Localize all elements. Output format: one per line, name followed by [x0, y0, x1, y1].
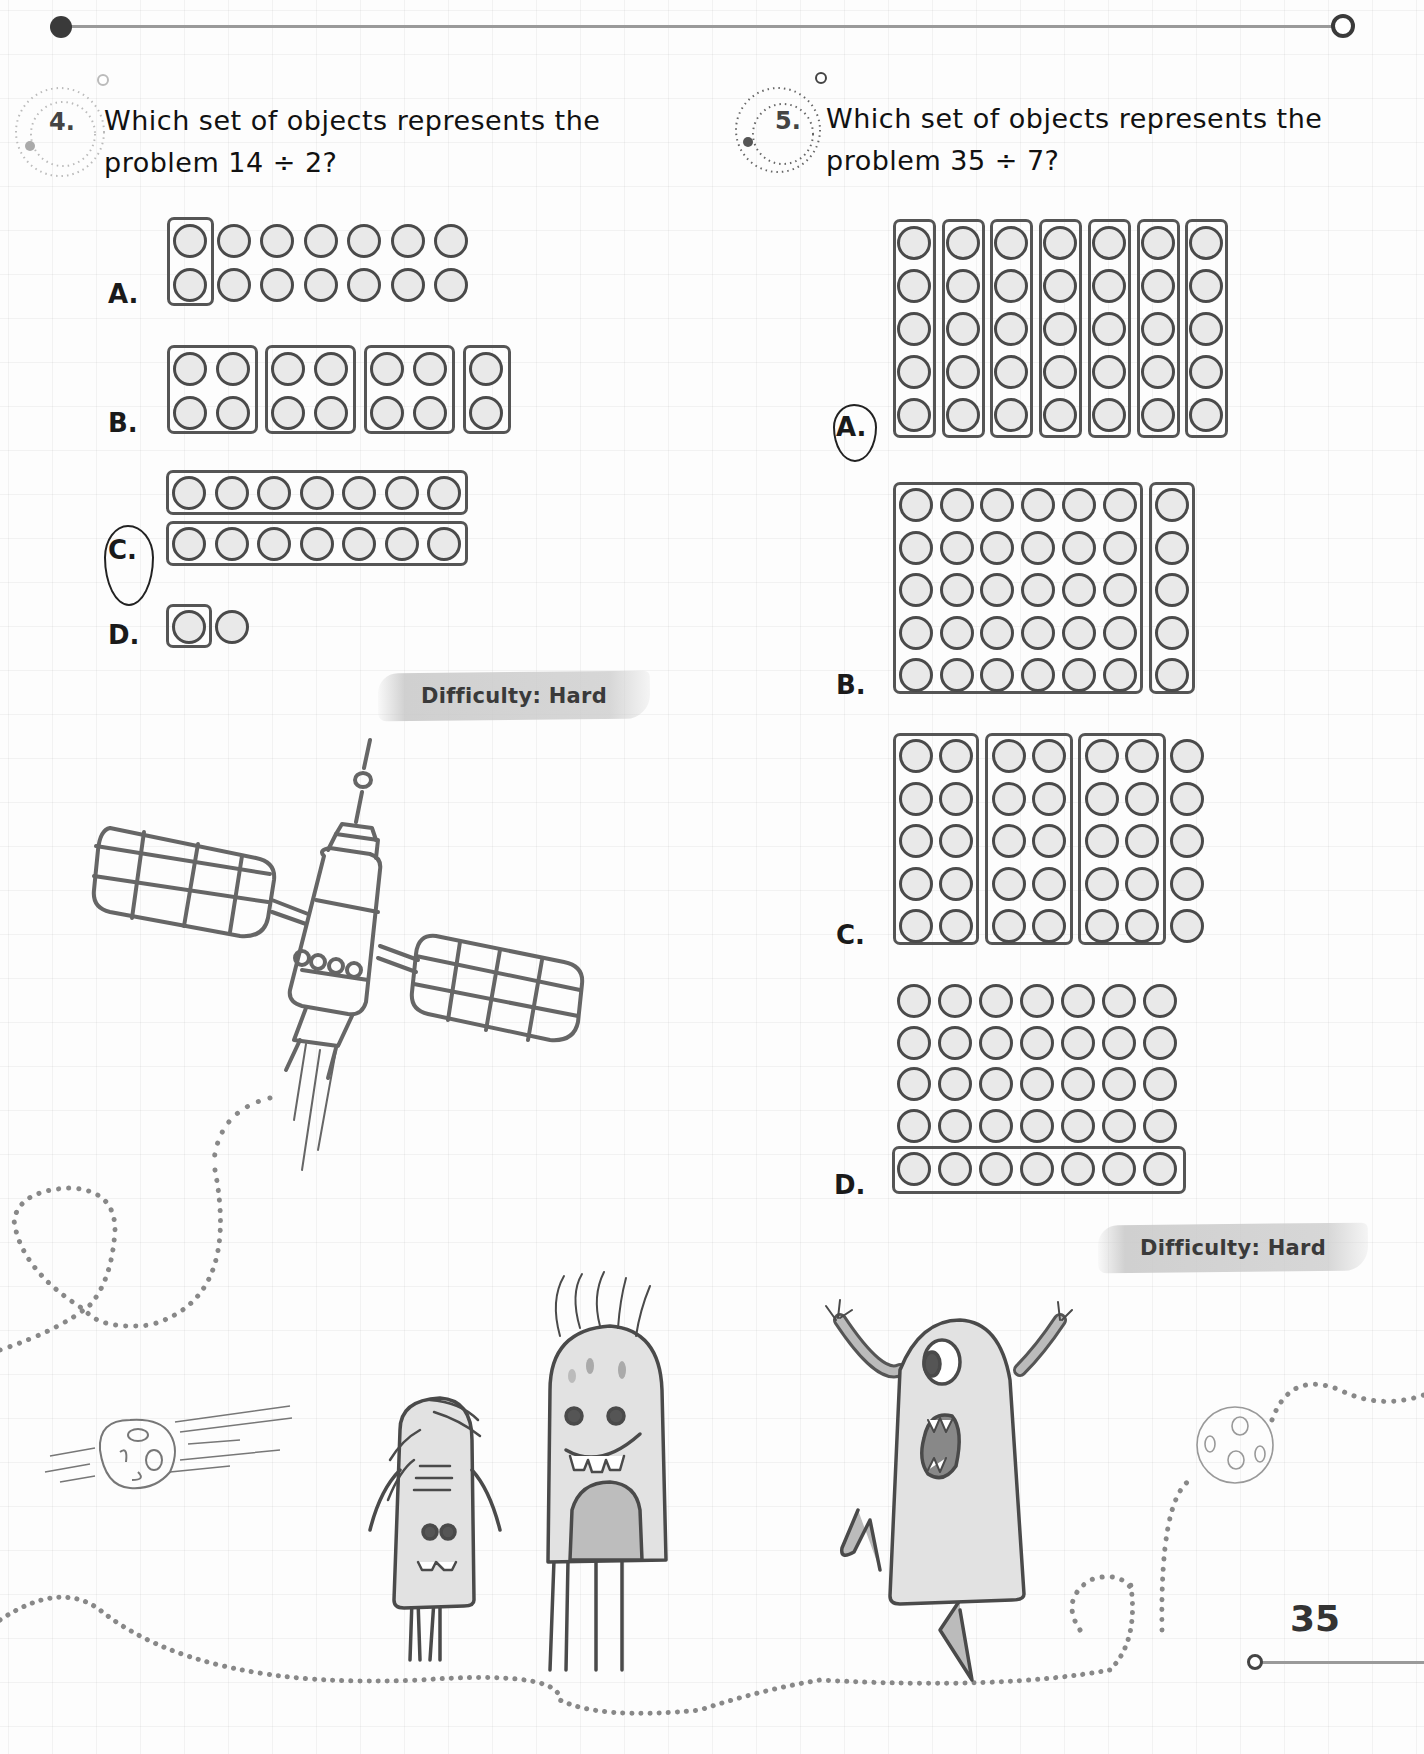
- object-circle: [1125, 782, 1159, 816]
- object-circle: [1020, 984, 1054, 1018]
- object-circle: [469, 352, 503, 386]
- object-circle: [434, 268, 468, 302]
- object-circle: [1102, 1152, 1136, 1186]
- question-text-line-1: Which set of objects represents the: [104, 100, 600, 142]
- object-circle: [979, 984, 1013, 1018]
- object-circle: [899, 909, 933, 943]
- object-circle: [215, 610, 249, 644]
- object-circle: [992, 739, 1026, 773]
- object-circle: [413, 396, 447, 430]
- object-circle: [946, 226, 980, 260]
- object-circle: [304, 268, 338, 302]
- object-circle: [1143, 984, 1177, 1018]
- object-circle: [215, 527, 249, 561]
- object-circle: [897, 1109, 931, 1143]
- object-circle: [370, 352, 404, 386]
- option-label: B.: [836, 670, 866, 700]
- object-circle: [1141, 312, 1175, 346]
- option-label: A.: [108, 279, 138, 309]
- object-circle: [1189, 398, 1223, 432]
- monster-short: [370, 1398, 500, 1660]
- header-rule-end-ring: [1331, 14, 1355, 38]
- question-number: 4.: [49, 108, 75, 136]
- object-circle: [1170, 782, 1204, 816]
- object-circle: [980, 488, 1014, 522]
- object-circle: [1189, 355, 1223, 389]
- object-circle: [899, 824, 933, 858]
- object-circle: [1032, 867, 1066, 901]
- object-circle: [1061, 984, 1095, 1018]
- object-circle: [899, 531, 933, 565]
- object-circle: [413, 352, 447, 386]
- object-circle: [1085, 824, 1119, 858]
- object-circle: [1141, 269, 1175, 303]
- object-circle: [1062, 531, 1096, 565]
- object-circle: [1020, 1152, 1054, 1186]
- object-circle: [1155, 573, 1189, 607]
- option-label: D.: [834, 1170, 865, 1200]
- object-circle: [1061, 1067, 1095, 1101]
- option-label: C.: [108, 535, 137, 565]
- object-circle: [1170, 739, 1204, 773]
- page-number: 35: [1290, 1598, 1340, 1639]
- object-circle: [1092, 398, 1126, 432]
- object-circle: [897, 1152, 931, 1186]
- object-circle: [347, 224, 381, 258]
- object-circle: [1170, 909, 1204, 943]
- object-circle: [385, 527, 419, 561]
- object-circle: [314, 396, 348, 430]
- object-circle: [173, 352, 207, 386]
- object-circle: [1102, 1067, 1136, 1101]
- dotted-path-right: [1050, 1370, 1424, 1630]
- object-circle: [173, 224, 207, 258]
- object-circle: [897, 355, 931, 389]
- object-circle: [1020, 1067, 1054, 1101]
- object-circle: [1043, 269, 1077, 303]
- object-circle: [1143, 1109, 1177, 1143]
- object-circle: [1062, 658, 1096, 692]
- object-circle: [899, 488, 933, 522]
- object-circle: [992, 824, 1026, 858]
- object-circle: [1125, 739, 1159, 773]
- object-circle: [899, 573, 933, 607]
- object-circle: [1043, 398, 1077, 432]
- object-circle: [980, 573, 1014, 607]
- object-circle: [216, 352, 250, 386]
- object-circle: [938, 1109, 972, 1143]
- object-circle: [1020, 1109, 1054, 1143]
- object-circle: [215, 476, 249, 510]
- object-circle: [1170, 824, 1204, 858]
- moon-illustration: [1197, 1407, 1273, 1483]
- object-circle: [979, 1026, 1013, 1060]
- object-circle: [946, 269, 980, 303]
- object-circle: [940, 573, 974, 607]
- question-text-line-2: problem 14 ÷ 2?: [104, 142, 600, 184]
- header-rule: [60, 25, 1342, 28]
- object-circle: [992, 909, 1026, 943]
- object-circle: [938, 1026, 972, 1060]
- object-circle: [1155, 531, 1189, 565]
- object-circle: [897, 269, 931, 303]
- object-circle: [1102, 984, 1136, 1018]
- object-circle: [940, 488, 974, 522]
- object-circle: [980, 658, 1014, 692]
- object-circle: [1143, 1026, 1177, 1060]
- object-circle: [173, 396, 207, 430]
- difficulty-tag: Difficulty: Hard: [1098, 1224, 1368, 1272]
- object-circle: [1102, 1109, 1136, 1143]
- object-circle: [1143, 1067, 1177, 1101]
- object-circle: [1032, 782, 1066, 816]
- object-circle: [938, 1067, 972, 1101]
- object-circle: [1021, 616, 1055, 650]
- object-circle: [979, 1152, 1013, 1186]
- object-circle: [260, 224, 294, 258]
- object-circle: [1085, 739, 1119, 773]
- object-circle: [897, 1067, 931, 1101]
- question-text-line-1: Which set of objects represents the: [826, 98, 1322, 140]
- object-circle: [940, 531, 974, 565]
- object-circle: [1043, 355, 1077, 389]
- satellite-illustration: [80, 740, 660, 1180]
- object-circle: [1103, 488, 1137, 522]
- object-circle: [300, 476, 334, 510]
- object-circle: [271, 352, 305, 386]
